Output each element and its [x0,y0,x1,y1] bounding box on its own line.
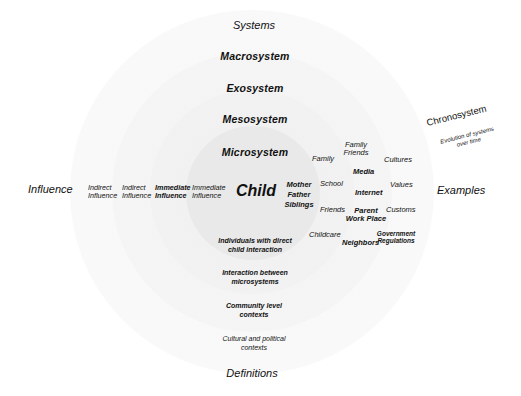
child-label: Child [236,183,276,200]
influence-label-exo: Indirect Influence [122,184,151,199]
example-childcare: Childcare [309,231,341,239]
examples-axis-label: Examples [437,185,485,197]
definition-text: microsystems [222,278,288,287]
definition-macrosystem: Cultural and political contexts [222,335,285,353]
example-siblings: Siblings [284,200,313,210]
influence-label-macro: Indirect Influence [88,184,117,199]
chronosystem-label: Chronosystem [426,103,488,127]
mesosystem-label: Mesosystem [222,114,287,125]
example-mother: Mother [284,180,313,190]
example-text: Work Place [346,215,386,223]
definition-text: Community level [226,302,282,311]
definition-exosystem: Community level contexts [226,302,282,320]
exosystem-label: Exosystem [226,83,283,94]
example-school: School [320,180,343,188]
systems-axis-label: Systems [233,20,275,32]
influence-label-micro: Immediate Influence [192,184,226,199]
definition-text: child interaction [218,246,292,255]
definition-text: contexts [222,344,285,353]
example-family: Family [312,155,334,163]
definition-text: Interaction between [222,269,288,278]
definition-microsystem: Individuals with direct child interactio… [218,237,292,255]
example-father: Father [284,190,313,200]
example-text: Regulations [377,238,415,245]
definition-text: Individuals with direct [218,237,292,246]
example-family-friends: Family Friends [343,141,368,157]
example-customs: Customs [386,206,416,214]
ecological-systems-diagram: Systems Influence Examples Definitions M… [0,0,521,396]
microsystem-examples: Mother Father Siblings [284,180,313,210]
influence-line: Influence [88,192,117,200]
example-internet: Internet [355,189,383,197]
influence-line: Influence [122,192,151,200]
macrosystem-label: Macrosystem [220,51,289,62]
definition-text: contexts [226,311,282,320]
influence-line: Influence [192,192,226,200]
example-text: Friends [343,149,368,157]
definitions-axis-label: Definitions [226,368,277,380]
chronosystem-description: Evolution of systems over time [440,126,497,153]
microsystem-label: Microsystem [222,147,288,158]
influence-label-meso: Immediate Influence [155,184,191,199]
definition-mesosystem: Interaction between microsystems [222,269,288,287]
influence-axis-label: Influence [28,184,73,196]
example-media: Media [353,168,374,176]
example-parent-workplace: Parent Work Place [346,207,386,223]
example-cultures: Cultures [384,156,412,164]
example-values: Values [390,181,413,189]
example-neighbors: Neighbors [342,239,379,247]
definition-text: Cultural and political [222,335,285,344]
influence-line: Influence [155,192,191,200]
example-friends: Friends [320,206,345,214]
example-government-regulations: Government Regulations [377,231,415,245]
